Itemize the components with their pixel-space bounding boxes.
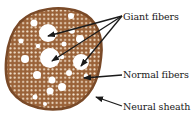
neural-sheath-arrow	[96, 97, 122, 106]
normal-fibers-label: Normal fibers	[123, 69, 189, 80]
neural-sheath-label: Neural sheath	[123, 101, 190, 112]
nerve-cross-section-diagram: Giant fibers Normal fibers Neural sheath	[0, 0, 193, 127]
giant-fibers-label: Giant fibers	[123, 11, 179, 22]
